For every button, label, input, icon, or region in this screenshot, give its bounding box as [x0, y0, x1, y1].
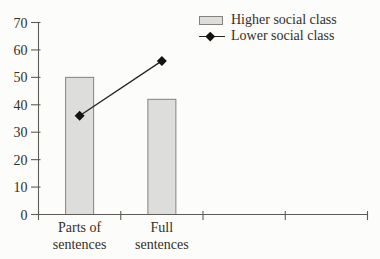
diamond-marker [157, 56, 167, 66]
x-category-label: Fullsentences [135, 220, 189, 252]
legend-item-higher-social-class: Higher social class [199, 12, 337, 28]
bar-swatch-icon [199, 16, 225, 25]
y-tick-label: 40 [14, 98, 28, 113]
bar [148, 99, 176, 214]
y-tick-label: 0 [21, 208, 28, 223]
y-tick-label: 70 [14, 16, 28, 31]
legend-label-higher: Higher social class [231, 12, 337, 28]
x-category-label: Parts ofsentences [53, 220, 107, 252]
y-tick-label: 50 [14, 70, 28, 85]
legend: Higher social class Lower social class [199, 12, 337, 44]
line-diamond-swatch-icon [199, 32, 225, 41]
y-tick-label: 30 [14, 125, 28, 140]
legend-item-lower-social-class: Lower social class [199, 28, 337, 44]
bar [66, 77, 94, 214]
legend-label-lower: Lower social class [231, 28, 334, 44]
y-tick-label: 20 [14, 153, 28, 168]
y-tick-label: 10 [14, 180, 28, 195]
chart-figure: 010203040506070Parts ofsentencesFullsent… [0, 0, 380, 259]
y-tick-label: 60 [14, 43, 28, 58]
